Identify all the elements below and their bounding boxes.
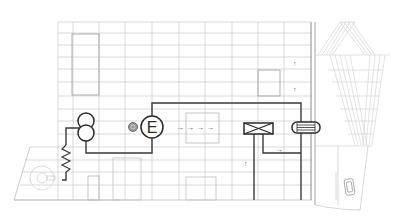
heat-exchanger-icon[interactable]	[244, 123, 273, 134]
generator-icon[interactable]: E	[141, 116, 163, 138]
meter-icon[interactable]	[129, 123, 138, 132]
svg-text:→: →	[196, 123, 204, 132]
transformer-icon[interactable]	[78, 113, 94, 141]
flow-arrow-right: →	[275, 145, 283, 154]
generator-label: E	[147, 119, 158, 136]
svg-text:↑: ↑	[244, 160, 248, 167]
svg-text:↑: ↑	[293, 60, 297, 67]
building-energy-diagram: E → → → → → ↑ ↑ ↑	[0, 0, 400, 219]
svg-text:↑: ↑	[293, 86, 297, 93]
svg-text:→: →	[206, 123, 214, 132]
svg-text:→: →	[176, 123, 184, 132]
svg-text:→: →	[186, 123, 194, 132]
storage-tank-icon[interactable]	[292, 122, 320, 133]
